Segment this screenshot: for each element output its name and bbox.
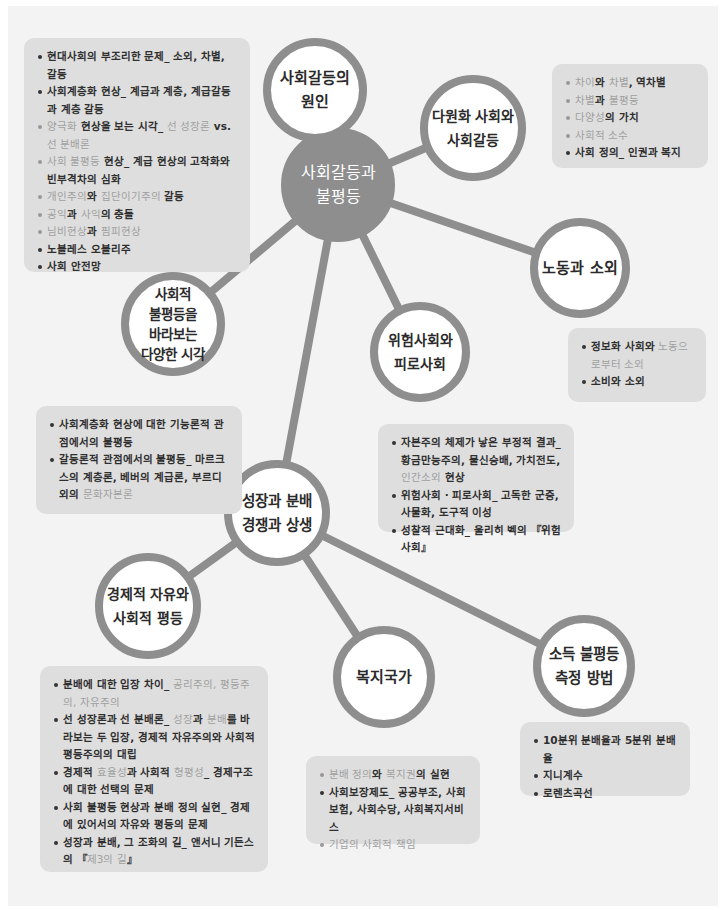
bullet-list: 10분위 분배율과 5분위 분배율지니계수로렌츠곡선	[534, 732, 678, 802]
bullet-item: 노블레스 오블리주	[38, 241, 238, 259]
bullet-text: 과	[193, 713, 207, 725]
highlighted-term: 선 분배론	[47, 138, 90, 150]
highlighted-term: 인간소외	[401, 471, 441, 483]
bullet-text: , 역차별	[629, 76, 667, 88]
center-node: 사회갈등과 불평등	[281, 128, 395, 242]
highlighted-term: 집단이기주의	[101, 190, 161, 202]
bullet-item: 다양성의 가치	[566, 109, 696, 127]
bullet-item: 성찰적 근대화_ 울리히 벡의 『위험사회』	[392, 522, 562, 557]
bullet-list: 분배에 대한 입장 차이_ 공리주의, 평등주의, 자유주의선 성장론과 선 분…	[54, 676, 256, 869]
highlighted-term: 개인주의	[47, 190, 87, 202]
bullet-list: 사회계층화 현상에 대한 기능론적 관점에서의 불평등갈등론적 관점에서의 불평…	[50, 416, 230, 504]
bullet-text: 과 사회적	[127, 766, 174, 778]
bullet-item: 경제적 효율성과 사회적 형평성_ 경제구조에 대한 선택의 문제	[54, 764, 256, 799]
bullet-item: 소비와 소외	[582, 373, 694, 391]
box-labor: 정보화 사회와 노동으로부터 소외소비와 소외	[568, 328, 706, 402]
bullet-text: 10분위 분배율과 5분위 분배율	[543, 734, 676, 764]
bullet-text: 사회 안전망	[47, 260, 101, 272]
bullet-text: 선 성장론과 선 분배론_	[63, 713, 173, 725]
highlighted-term: 다양성	[575, 111, 605, 123]
bullet-text: 소비와 소외	[591, 375, 645, 387]
node-labor: 노동과 소외	[530, 218, 630, 318]
node-label: 소득 불평등 측정 방법	[549, 642, 619, 690]
node-causes: 사회갈등의 원인	[263, 38, 367, 142]
bullet-text: 성찰적 근대화_ 울리히 벡의 『위험사회』	[401, 524, 561, 554]
bullet-item: 공익과 사익의 충돌	[38, 206, 238, 224]
bullet-item: 님비현상과 핌피현상	[38, 223, 238, 241]
bullet-item: 사회계층화 현상_ 계급과 계층, 계급갈등과 계층 갈등	[38, 83, 238, 118]
box-freedom: 분배에 대한 입장 차이_ 공리주의, 평등주의, 자유주의선 성장론과 선 분…	[40, 666, 268, 872]
bullet-item: 사회 불평등 현상_ 계급 현상의 고착화와 빈부격차의 심화	[38, 153, 238, 188]
bullet-item: 기업의 사회적 책임	[320, 836, 468, 854]
bullet-list: 차이와 차별, 역차별차별과 불평등다양성의 가치사회적 소수사회 정의_ 인권…	[566, 74, 696, 162]
highlighted-term: 차이	[575, 76, 595, 88]
highlighted-term: 불평등	[609, 94, 639, 106]
highlighted-term: 선 성장론	[167, 120, 210, 132]
bullet-text: 경제적	[63, 766, 97, 778]
bullet-text: 분배에 대한 입장 차이_	[63, 678, 173, 690]
bullet-text: 과	[595, 94, 609, 106]
bullet-text: 와	[595, 76, 609, 88]
bullet-text: vs.	[210, 120, 231, 132]
highlighted-term: 님비현상	[47, 225, 87, 237]
bullet-item: 사회적 소수	[566, 127, 696, 145]
bullet-text: 위험사회 · 피로사회_ 고독한 군중, 사물화, 도구적 이성	[401, 489, 559, 519]
box-income: 10분위 분배율과 5분위 분배율지니계수로렌츠곡선	[520, 722, 690, 796]
bullet-text: 와	[372, 768, 386, 780]
bullet-item: 차이와 차별, 역차별	[566, 74, 696, 92]
bullet-text: 정보화 사회와	[591, 340, 658, 352]
node-label: 다원화 사회와 사회갈등	[432, 104, 515, 152]
highlighted-term: 복지권	[386, 768, 416, 780]
bullet-text: 현상	[441, 471, 465, 483]
bullet-item: 자본주의 체제가 낳은 부정적 결과_ 황금만능주의, 물신숭배, 가치전도, …	[392, 434, 562, 487]
highlighted-term: 성장	[173, 713, 193, 725]
highlighted-term: 공익	[47, 208, 67, 220]
bullet-item: 개인주의와 집단이기주의 갈등	[38, 188, 238, 206]
bullet-item: 선 성장론과 선 분배론_ 성장과 분배를 바라보는 두 입장, 경제적 자유주…	[54, 711, 256, 764]
bullet-text: 사회계층화 현상에 대한 기능론적 관점에서의 불평등	[59, 418, 224, 448]
bullet-item: 현대사회의 부조리한 문제_ 소외, 차별, 갈등	[38, 48, 238, 83]
box-risk: 자본주의 체제가 낳은 부정적 결과_ 황금만능주의, 물신숭배, 가치전도, …	[378, 424, 574, 532]
bullet-text: 지니계수	[543, 769, 583, 781]
highlighted-term: 기업의 사회적 책임	[329, 838, 416, 850]
bullet-text: 자본주의 체제가 낳은 부정적 결과_ 황금만능주의, 물신숭배, 가치전도,	[401, 436, 561, 466]
node-label: 복지국가	[356, 665, 412, 689]
bullet-text: 사회계층화 현상_ 계급과 계층, 계급갈등과 계층 갈등	[47, 85, 231, 115]
highlighted-term: 차별	[609, 76, 629, 88]
bullet-list: 분배 정의와 복지권의 실현사회보장제도_ 공공부조, 사회보험, 사회수당, …	[320, 766, 468, 854]
node-freedom: 경제적 자유와 사회적 평등	[95, 553, 201, 659]
node-pluralism: 다원화 사회와 사회갈등	[420, 75, 526, 181]
bullet-item: 사회계층화 현상에 대한 기능론적 관점에서의 불평등	[50, 416, 230, 451]
bullet-text: 의 충돌	[101, 208, 135, 220]
bullet-text: 과	[87, 225, 101, 237]
node-label: 성장과 분배 경쟁과 상생	[242, 489, 312, 537]
bullet-text: 의 가치	[605, 111, 639, 123]
bullet-item: 위험사회 · 피로사회_ 고독한 군중, 사물화, 도구적 이성	[392, 487, 562, 522]
bullet-text: 갈등	[161, 190, 185, 202]
node-perspectives: 사회적 불평등을 바라보는 다양한 시각	[121, 272, 225, 376]
bullet-item: 사회 정의_ 인권과 복지	[566, 144, 696, 162]
highlighted-term: 차별	[575, 94, 595, 106]
box-perspectives: 사회계층화 현상에 대한 기능론적 관점에서의 불평등갈등론적 관점에서의 불평…	[36, 406, 242, 514]
bullet-list: 정보화 사회와 노동으로부터 소외소비와 소외	[582, 338, 694, 391]
bullet-text: 현상을 보는 시각_	[77, 120, 167, 132]
highlighted-term: 분배	[207, 713, 227, 725]
bullet-item: 갈등론적 관점에서의 불평등_ 마르크스의 계층론, 베버의 계급론, 부르디외…	[50, 451, 230, 504]
bullet-text: 현대사회의 부조리한 문제_ 소외, 차별, 갈등	[47, 50, 225, 80]
highlighted-term: 사회적 소수	[575, 129, 628, 141]
bullet-text: 노블레스 오블리주	[47, 243, 131, 255]
bullet-text: 와	[87, 190, 101, 202]
node-label: 사회적 불평등을 바라보는 다양한 시각	[141, 284, 206, 364]
bullet-list: 자본주의 체제가 낳은 부정적 결과_ 황금만능주의, 물신숭배, 가치전도, …	[392, 434, 562, 557]
highlighted-term: 핌피현상	[101, 225, 141, 237]
highlighted-term: 양극화	[47, 120, 77, 132]
node-risk: 위험사회와 피로사회	[370, 302, 470, 402]
bullet-item: 차별과 불평등	[566, 92, 696, 110]
bullet-item: 양극화 현상을 보는 시각_ 선 성장론 vs. 선 분배론	[38, 118, 238, 153]
bullet-text: 과	[67, 208, 81, 220]
highlighted-term: 제3의 길	[87, 853, 127, 865]
node-label: 위험사회와 피로사회	[388, 328, 453, 376]
highlighted-term: 형평성	[174, 766, 204, 778]
highlighted-term: 사익	[81, 208, 101, 220]
bullet-item: 성장과 분배, 그 조화의 길_ 앤서니 기든스의 『제3의 길』	[54, 834, 256, 869]
